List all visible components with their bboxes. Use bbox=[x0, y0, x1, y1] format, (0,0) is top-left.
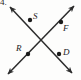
point-label-S: S bbox=[33, 12, 38, 21]
point-dot-S bbox=[28, 18, 32, 22]
point-dot-R bbox=[26, 52, 30, 56]
intersecting-lines-diagram bbox=[0, 0, 81, 80]
point-dot-D bbox=[57, 52, 61, 56]
geometry-figure: 4. S F R D bbox=[0, 0, 81, 80]
point-label-D: D bbox=[63, 48, 70, 57]
point-label-F: F bbox=[63, 24, 69, 33]
point-label-R: R bbox=[16, 44, 22, 53]
